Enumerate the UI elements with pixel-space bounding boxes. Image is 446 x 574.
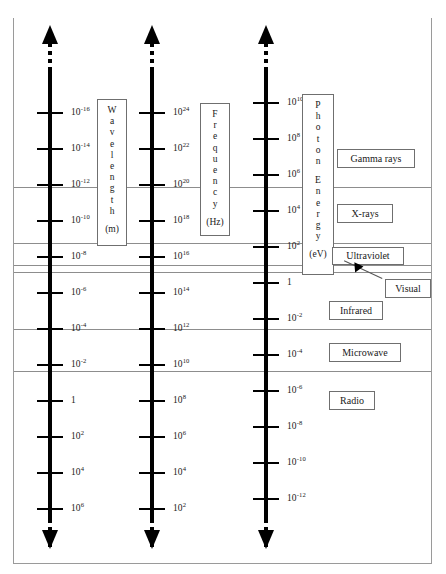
axis-tick bbox=[37, 364, 63, 366]
title-char: n bbox=[303, 186, 333, 197]
title-char: e bbox=[201, 131, 229, 142]
axis-solid-line bbox=[150, 70, 154, 520]
title-char: r bbox=[303, 209, 333, 220]
axis-dashed-top bbox=[150, 43, 154, 71]
title-char: e bbox=[303, 198, 333, 209]
arrow-down-icon bbox=[144, 530, 160, 549]
axis-tick bbox=[139, 292, 165, 294]
axis-tick bbox=[37, 436, 63, 438]
axis-dashed-top bbox=[48, 43, 52, 71]
tick-label: 1016 bbox=[173, 251, 190, 261]
axis-tick bbox=[37, 184, 63, 186]
axis-tick bbox=[139, 328, 165, 330]
tick-label: 10-14 bbox=[71, 143, 90, 153]
title-char: n bbox=[303, 156, 333, 167]
title-char: o bbox=[303, 122, 333, 133]
axis-frequency: 1024 1022 1020 1018 1016 1014 1012 1010 … bbox=[150, 22, 154, 552]
tick-label: 10-16 bbox=[71, 107, 90, 117]
tick-label: 106 bbox=[71, 503, 84, 513]
tick-label: 108 bbox=[173, 395, 186, 405]
band-label-ultraviolet: Ultraviolet bbox=[332, 247, 404, 265]
tick-label: 106 bbox=[287, 169, 300, 179]
tick-label: 10-12 bbox=[71, 179, 90, 189]
tick-label: 10-10 bbox=[71, 215, 90, 225]
arrow-down-icon bbox=[258, 530, 274, 549]
arrow-up-icon bbox=[144, 25, 160, 44]
tick-label: 1010 bbox=[173, 359, 190, 369]
tick-label: 10-6 bbox=[71, 287, 86, 297]
axis-tick bbox=[139, 112, 165, 114]
title-char: W bbox=[98, 105, 126, 116]
arrow-up-icon bbox=[258, 25, 274, 44]
band-label-visual: Visual bbox=[385, 279, 431, 298]
axis-tick bbox=[37, 292, 63, 294]
axis-tick bbox=[253, 138, 279, 140]
axis-tick bbox=[253, 390, 279, 392]
tick-label: 1020 bbox=[173, 179, 190, 189]
axis-tick bbox=[37, 400, 63, 402]
band-label-microwave: Microwave bbox=[329, 343, 401, 362]
title-char: y bbox=[201, 199, 229, 210]
title-spacer bbox=[303, 167, 333, 175]
title-char: t bbox=[98, 195, 126, 206]
title-char: g bbox=[303, 220, 333, 231]
band-label-radio: Radio bbox=[329, 391, 375, 410]
axis-tick bbox=[139, 256, 165, 258]
tick-label: 1012 bbox=[173, 323, 190, 333]
tick-label: 102 bbox=[173, 503, 186, 513]
tick-label: 10-2 bbox=[71, 359, 86, 369]
tick-label: 10-6 bbox=[287, 385, 302, 395]
axis-tick bbox=[37, 112, 63, 114]
band-label-infrared: Infrared bbox=[329, 301, 383, 320]
tick-label: 10-4 bbox=[71, 323, 86, 333]
tick-label: 108 bbox=[287, 133, 300, 143]
tick-label: 10-2 bbox=[287, 313, 302, 323]
axis-tick bbox=[139, 184, 165, 186]
tick-label: 102 bbox=[287, 241, 300, 251]
arrow-up-icon bbox=[42, 25, 58, 44]
axis-solid-line bbox=[48, 70, 52, 520]
electromagnetic-spectrum-figure: 10-16 10-14 10-12 10-10 10-8 10-6 10-4 1… bbox=[0, 0, 446, 574]
axis-title-frequency: F r e q u e n c y (Hz) bbox=[200, 103, 230, 236]
axis-title-wavelength: W a v e l e n g t h (m) bbox=[97, 99, 127, 246]
axis-tick bbox=[139, 220, 165, 222]
tick-label: 1014 bbox=[173, 287, 190, 297]
title-char: e bbox=[98, 139, 126, 150]
title-char: y bbox=[303, 231, 333, 242]
band-label-gamma-rays: Gamma rays bbox=[337, 149, 415, 168]
axis-tick bbox=[253, 354, 279, 356]
title-char: o bbox=[303, 145, 333, 156]
tick-label: 10-8 bbox=[71, 251, 86, 261]
axis-unit: (eV) bbox=[303, 249, 333, 260]
axis-tick bbox=[37, 472, 63, 474]
title-char: e bbox=[201, 165, 229, 176]
tick-label: 102 bbox=[71, 431, 84, 441]
axis-tick bbox=[139, 472, 165, 474]
title-char: h bbox=[98, 206, 126, 217]
title-char: e bbox=[98, 161, 126, 172]
axis-tick bbox=[139, 364, 165, 366]
axis-tick bbox=[37, 148, 63, 150]
axis-tick bbox=[139, 148, 165, 150]
title-char: r bbox=[201, 120, 229, 131]
axis-tick bbox=[253, 210, 279, 212]
title-char: c bbox=[201, 187, 229, 198]
axis-tick bbox=[139, 508, 165, 510]
axis-tick bbox=[37, 256, 63, 258]
axis-tick bbox=[37, 220, 63, 222]
figure-border-bottom bbox=[13, 563, 432, 564]
axis-dashed-top bbox=[264, 43, 268, 71]
tick-label: 1022 bbox=[173, 143, 190, 153]
axis-wavelength: 10-16 10-14 10-12 10-10 10-8 10-6 10-4 1… bbox=[48, 22, 52, 552]
title-char: l bbox=[98, 150, 126, 161]
title-char: n bbox=[98, 172, 126, 183]
axis-unit: (Hz) bbox=[201, 217, 229, 228]
tick-label: 104 bbox=[71, 467, 84, 477]
tick-label: 1018 bbox=[173, 215, 190, 225]
title-char: g bbox=[98, 183, 126, 194]
title-char: v bbox=[98, 127, 126, 138]
title-char: P bbox=[303, 100, 333, 111]
axis-tick bbox=[253, 498, 279, 500]
tick-label: 104 bbox=[287, 205, 300, 215]
axis-tick bbox=[253, 462, 279, 464]
